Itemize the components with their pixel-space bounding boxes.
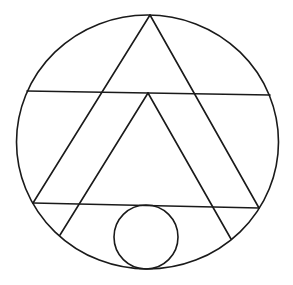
outer-right-side — [150, 15, 259, 208]
inner-circle — [114, 205, 178, 269]
inner-right-side — [148, 93, 231, 239]
inner-left-side — [60, 93, 148, 235]
outer-circle — [17, 15, 279, 269]
geometric-diagram — [0, 0, 293, 285]
outer-left-side — [33, 15, 150, 203]
